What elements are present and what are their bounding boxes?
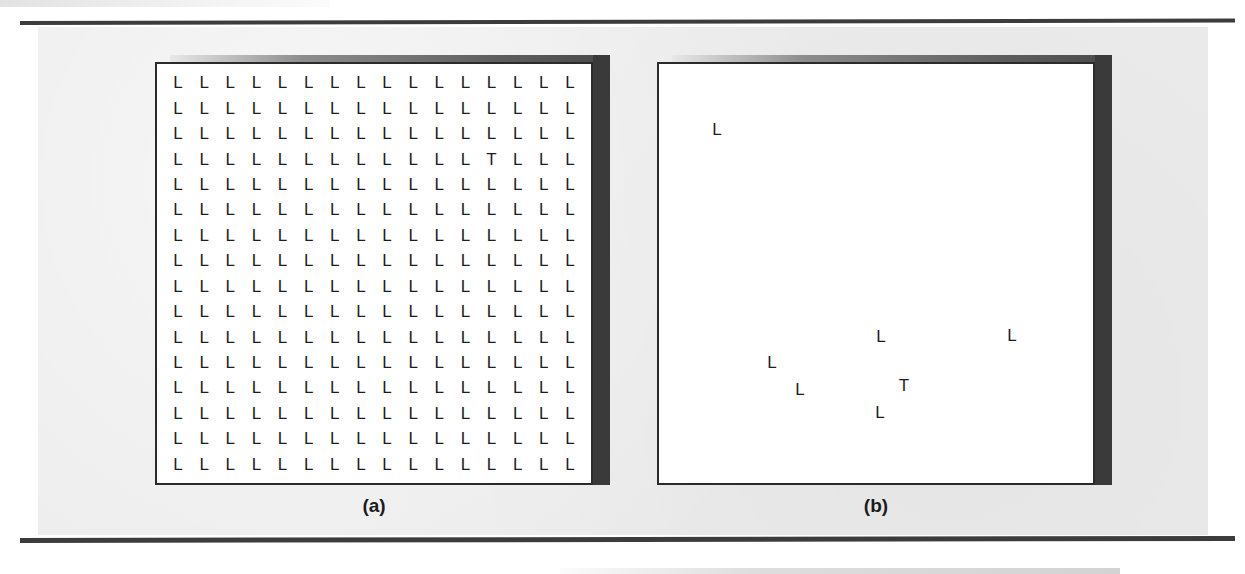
distractor-letter-l: L xyxy=(400,350,426,375)
distractor-letter-l: L xyxy=(557,375,583,400)
distractor-letter-l: L xyxy=(296,121,322,146)
distractor-letter-l: L xyxy=(322,350,348,375)
distractor-letter-l: L xyxy=(165,248,191,273)
distractor-letter-l: L xyxy=(452,324,478,349)
distractor-letter-l: L xyxy=(400,146,426,171)
distractor-letter-l: L xyxy=(270,426,296,451)
distractor-letter-l: L xyxy=(426,248,452,273)
distractor-letter-l: L xyxy=(400,70,426,95)
distractor-letter-l: L xyxy=(348,324,374,349)
distractor-letter-l: L xyxy=(270,70,296,95)
distractor-letter-l: L xyxy=(270,375,296,400)
distractor-letter-l: L xyxy=(426,452,452,477)
distractor-letter-l: L xyxy=(505,248,531,273)
distractor-letter-l: L xyxy=(217,172,243,197)
distractor-letter-l: L xyxy=(348,121,374,146)
distractor-letter-l: L xyxy=(505,299,531,324)
distractor-letter-l: L xyxy=(270,121,296,146)
distractor-letter-l: L xyxy=(296,401,322,426)
panel-a-shadow-right xyxy=(593,55,610,485)
distractor-letter-l: L xyxy=(165,426,191,451)
distractor-letter-l: L xyxy=(374,248,400,273)
distractor-letter-l: L xyxy=(217,146,243,171)
distractor-letter-l: L xyxy=(426,401,452,426)
distractor-letter-l: L xyxy=(348,146,374,171)
distractor-letter-l: L xyxy=(270,452,296,477)
distractor-letter-l: L xyxy=(426,299,452,324)
figure-root: LLLLLLLLLLLLLLLLLLLLLLLLLLLLLLLLLLLLLLLL… xyxy=(0,0,1245,574)
distractor-letter-l: L xyxy=(296,299,322,324)
distractor-letter-l: L xyxy=(374,70,400,95)
distractor-letter-l: L xyxy=(426,375,452,400)
distractor-letter-l: L xyxy=(217,121,243,146)
distractor-letter-l: L xyxy=(270,223,296,248)
distractor-letter-l: L xyxy=(452,121,478,146)
distractor-letter-l: L xyxy=(374,223,400,248)
distractor-letter-l: L xyxy=(165,223,191,248)
distractor-letter-l: L xyxy=(191,350,217,375)
distractor-letter-l: L xyxy=(348,350,374,375)
distractor-letter-l: L xyxy=(452,223,478,248)
distractor-letter-l: L xyxy=(795,381,804,398)
distractor-letter-l: L xyxy=(557,248,583,273)
distractor-letter-l: L xyxy=(243,70,269,95)
distractor-letter-l: L xyxy=(191,197,217,222)
distractor-letter-l: L xyxy=(557,426,583,451)
distractor-letter-l: L xyxy=(243,375,269,400)
distractor-letter-l: L xyxy=(374,197,400,222)
panel-a-dense-display: LLLLLLLLLLLLLLLLLLLLLLLLLLLLLLLLLLLLLLLL… xyxy=(155,62,593,485)
distractor-letter-l: L xyxy=(505,146,531,171)
distractor-letter-l: L xyxy=(531,248,557,273)
distractor-letter-l: L xyxy=(767,354,776,371)
distractor-letter-l: L xyxy=(348,70,374,95)
distractor-letter-l: L xyxy=(374,299,400,324)
distractor-letter-l: L xyxy=(400,426,426,451)
distractor-letter-l: L xyxy=(348,248,374,273)
distractor-letter-l: L xyxy=(452,401,478,426)
distractor-letter-l: L xyxy=(531,197,557,222)
distractor-letter-l: L xyxy=(531,426,557,451)
distractor-letter-l: L xyxy=(296,452,322,477)
distractor-letter-l: L xyxy=(400,121,426,146)
distractor-letter-l: L xyxy=(322,223,348,248)
distractor-letter-l: L xyxy=(712,121,721,138)
distractor-letter-l: L xyxy=(243,197,269,222)
distractor-letter-l: L xyxy=(165,95,191,120)
distractor-letter-l: L xyxy=(426,274,452,299)
distractor-letter-l: L xyxy=(243,248,269,273)
distractor-letter-l: L xyxy=(374,426,400,451)
distractor-letter-l: L xyxy=(479,248,505,273)
distractor-letter-l: L xyxy=(479,426,505,451)
distractor-letter-l: L xyxy=(296,172,322,197)
distractor-letter-l: L xyxy=(374,452,400,477)
distractor-letter-l: L xyxy=(452,299,478,324)
distractor-letter-l: L xyxy=(400,248,426,273)
distractor-letter-l: L xyxy=(479,299,505,324)
distractor-letter-l: L xyxy=(165,375,191,400)
distractor-letter-l: L xyxy=(217,274,243,299)
distractor-letter-l: L xyxy=(217,299,243,324)
distractor-letter-l: L xyxy=(374,95,400,120)
distractor-letter-l: L xyxy=(400,324,426,349)
distractor-letter-l: L xyxy=(322,401,348,426)
distractor-letter-l: L xyxy=(348,197,374,222)
distractor-letter-l: L xyxy=(531,146,557,171)
distractor-letter-l: L xyxy=(557,324,583,349)
distractor-letter-l: L xyxy=(270,401,296,426)
distractor-letter-l: L xyxy=(374,324,400,349)
distractor-letter-l: L xyxy=(191,95,217,120)
distractor-letter-l: L xyxy=(479,274,505,299)
distractor-letter-l: L xyxy=(400,95,426,120)
distractor-letter-l: L xyxy=(479,121,505,146)
distractor-letter-l: L xyxy=(557,223,583,248)
distractor-letter-l: L xyxy=(243,452,269,477)
distractor-letter-l: L xyxy=(479,324,505,349)
distractor-letter-l: L xyxy=(322,70,348,95)
distractor-letter-l: L xyxy=(452,197,478,222)
distractor-letter-l: L xyxy=(243,401,269,426)
distractor-letter-l: L xyxy=(348,95,374,120)
distractor-letter-l: L xyxy=(479,375,505,400)
distractor-letter-l: L xyxy=(191,299,217,324)
distractor-letter-l: L xyxy=(400,401,426,426)
distractor-letter-l: L xyxy=(217,197,243,222)
